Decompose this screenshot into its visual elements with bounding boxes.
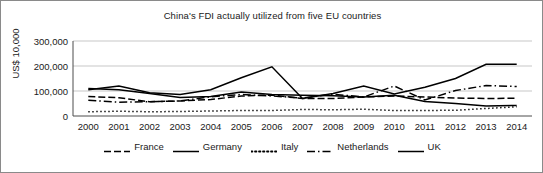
x-tick-label: 2007 [292, 121, 313, 132]
legend-item-germany[interactable]: Germany [173, 141, 242, 152]
legend-item-uk[interactable]: UK [398, 141, 441, 152]
x-tick-label: 2014 [506, 121, 527, 132]
legend-swatch-netherlands [307, 142, 333, 151]
x-tick-label: 2005 [231, 121, 252, 132]
legend-swatch-germany [173, 142, 199, 151]
legend-label: Italy [281, 141, 298, 152]
legend-item-italy[interactable]: Italy [251, 141, 298, 152]
gridlines [73, 41, 532, 91]
legend-label: Netherlands [337, 141, 388, 152]
legend-label: UK [428, 141, 441, 152]
x-tick-label: 2002 [139, 121, 160, 132]
x-axis-ticks: 2000200120022003200420052006200720082009… [78, 121, 528, 132]
x-tick-label: 2010 [384, 121, 405, 132]
legend-label: France [134, 141, 164, 152]
y-tick-label: 300,000 [34, 36, 68, 47]
y-tick-label: 0 [63, 111, 68, 122]
legend-swatch-uk [398, 142, 424, 151]
data-series [88, 64, 516, 112]
y-tick-label: 200,000 [34, 61, 68, 72]
x-tick-label: 2000 [78, 121, 99, 132]
legend-swatch-italy [251, 142, 277, 151]
legend-swatch-france [104, 142, 130, 151]
x-tick-label: 2006 [261, 121, 282, 132]
x-tick-label: 2012 [445, 121, 466, 132]
x-tick-label: 2008 [323, 121, 344, 132]
y-tick-label: 100,000 [34, 86, 68, 97]
series-line-italy [88, 107, 516, 112]
chart-figure: China's FDI actually utilized from five … [0, 0, 543, 173]
legend-item-netherlands[interactable]: Netherlands [307, 141, 388, 152]
x-tick-label: 2013 [476, 121, 497, 132]
x-tick-label: 2004 [200, 121, 221, 132]
legend-item-france[interactable]: France [104, 141, 164, 152]
x-tick-label: 2003 [170, 121, 191, 132]
y-axis-ticks: 0100,000200,000300,000 [34, 36, 68, 122]
x-tick-label: 2001 [108, 121, 129, 132]
chart-legend: FranceGermanyItalyNetherlandsUK [1, 141, 543, 152]
legend-label: Germany [203, 141, 242, 152]
x-tick-label: 2009 [353, 121, 374, 132]
x-tick-label: 2011 [415, 121, 435, 132]
